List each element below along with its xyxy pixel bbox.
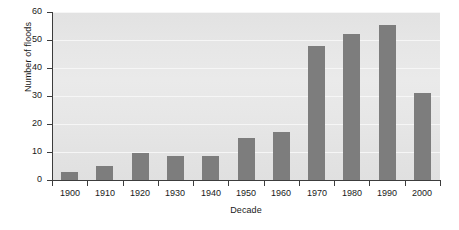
x-axis-tick bbox=[299, 181, 300, 186]
y-axis-tick-label: 50 bbox=[18, 35, 42, 44]
x-axis-tick bbox=[87, 181, 88, 186]
x-axis-tick bbox=[334, 181, 335, 186]
y-axis-tick-label: 60 bbox=[18, 7, 42, 16]
y-axis-tick-label: 30 bbox=[18, 91, 42, 100]
x-axis-tick-label: 1950 bbox=[226, 189, 266, 198]
bar-1900 bbox=[61, 172, 78, 180]
x-axis-tick bbox=[193, 181, 194, 186]
y-axis-tick-label: 40 bbox=[18, 63, 42, 72]
y-axis-tick bbox=[47, 40, 52, 41]
y-axis-tick bbox=[47, 152, 52, 153]
x-axis-tick-label: 1960 bbox=[261, 189, 301, 198]
bar-1980 bbox=[343, 34, 360, 180]
x-axis-tick bbox=[228, 181, 229, 186]
bar-1970 bbox=[308, 46, 325, 180]
bar-1950 bbox=[238, 138, 255, 180]
bar-1920 bbox=[132, 153, 149, 180]
y-axis-tick-label: 10 bbox=[18, 147, 42, 156]
x-axis-tick-label: 1990 bbox=[367, 189, 407, 198]
y-axis-tick bbox=[47, 124, 52, 125]
x-axis-tick-label: 1980 bbox=[332, 189, 372, 198]
gridline bbox=[52, 12, 440, 13]
x-axis-tick bbox=[264, 181, 265, 186]
x-axis-tick-label: 1940 bbox=[191, 189, 231, 198]
x-axis-tick-label: 1900 bbox=[50, 189, 90, 198]
y-axis-line bbox=[52, 12, 53, 181]
x-axis-tick-label: 1920 bbox=[120, 189, 160, 198]
x-axis-tick-label: 1970 bbox=[297, 189, 337, 198]
x-axis-tick-label: 1930 bbox=[155, 189, 195, 198]
y-axis-tick-label: 20 bbox=[18, 119, 42, 128]
x-axis-tick bbox=[123, 181, 124, 186]
x-axis-tick bbox=[52, 181, 53, 186]
x-axis-title: Decade bbox=[52, 205, 440, 215]
x-axis-tick-label: 1910 bbox=[85, 189, 125, 198]
bar-1930 bbox=[167, 156, 184, 180]
bar-1960 bbox=[273, 132, 290, 180]
x-axis-tick bbox=[405, 181, 406, 186]
y-axis-tick bbox=[47, 96, 52, 97]
x-axis-tick bbox=[158, 181, 159, 186]
x-axis-tick bbox=[440, 181, 441, 186]
bar-1940 bbox=[202, 156, 219, 180]
bar-1910 bbox=[96, 166, 113, 180]
y-axis-tick bbox=[47, 68, 52, 69]
y-axis-tick bbox=[47, 12, 52, 13]
x-axis-tick bbox=[369, 181, 370, 186]
flood-bar-chart: Number of floods 0102030405060 190019101… bbox=[0, 0, 459, 230]
plot-area bbox=[52, 12, 440, 180]
x-axis-line bbox=[52, 180, 441, 181]
bar-2000 bbox=[414, 93, 431, 180]
bar-1990 bbox=[379, 25, 396, 180]
x-axis-tick-label: 2000 bbox=[402, 189, 442, 198]
y-axis-tick-label: 0 bbox=[18, 175, 42, 184]
